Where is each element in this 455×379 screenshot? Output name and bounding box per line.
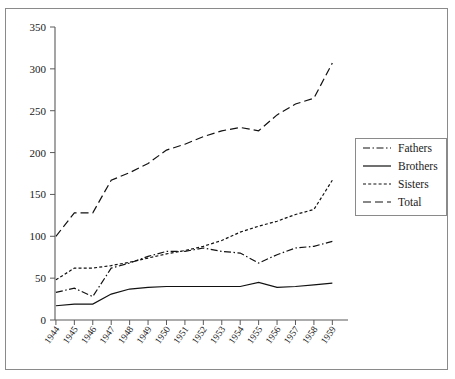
x-tick-label: 1958 (300, 324, 319, 346)
series-line-brothers (56, 282, 332, 305)
x-tick-label: 1952 (190, 324, 209, 346)
legend-item-fathers: Fathers (356, 139, 446, 157)
x-axis-labels: 1944194519461947194819491950195119521953… (42, 324, 338, 346)
y-tick-label: 50 (35, 272, 47, 284)
series-line-sisters (56, 180, 332, 280)
x-tick-label: 1948 (116, 324, 135, 346)
x-tick-label: 1957 (282, 324, 301, 346)
data-series-group (56, 63, 332, 306)
y-axis-ticks (50, 27, 55, 320)
y-tick-label: 100 (30, 230, 47, 242)
legend-item-sisters: Sisters (356, 175, 446, 193)
y-tick-label: 150 (30, 188, 47, 200)
legend-item-brothers: Brothers (356, 157, 446, 175)
x-tick-label: 1953 (208, 324, 227, 346)
y-tick-label: 300 (30, 63, 47, 75)
x-tick-label: 1951 (171, 324, 190, 346)
series-line-fathers (56, 241, 332, 296)
legend-swatch-total (361, 197, 393, 207)
x-axis-ticks (56, 320, 332, 325)
legend-label-sisters: Sisters (393, 178, 429, 190)
legend-item-total: Total (356, 193, 446, 211)
x-tick-label: 1947 (98, 324, 117, 346)
y-axis-labels: 050100150200250300350 (30, 21, 47, 326)
x-tick-label: 1954 (227, 324, 246, 346)
x-tick-label: 1955 (245, 324, 264, 346)
legend-swatch-sisters (361, 179, 393, 189)
x-tick-label: 1950 (153, 324, 172, 346)
legend-label-brothers: Brothers (393, 160, 438, 172)
chart-legend: Fathers Brothers Sisters Total (355, 138, 447, 216)
series-line-total (56, 63, 332, 236)
legend-label-fathers: Fathers (393, 142, 432, 154)
y-tick-label: 250 (30, 105, 47, 117)
legend-swatch-fathers (361, 143, 393, 153)
x-tick-label: 1944 (42, 324, 61, 346)
y-tick-label: 0 (41, 314, 47, 326)
x-tick-label: 1945 (61, 324, 80, 346)
x-tick-label: 1956 (264, 324, 283, 346)
legend-swatch-brothers (361, 161, 393, 171)
x-tick-label: 1946 (79, 324, 98, 346)
y-tick-label: 200 (30, 147, 47, 159)
y-tick-label: 350 (30, 21, 47, 33)
legend-label-total: Total (393, 196, 421, 208)
x-tick-label: 1949 (135, 324, 154, 346)
x-tick-label: 1959 (319, 324, 338, 346)
